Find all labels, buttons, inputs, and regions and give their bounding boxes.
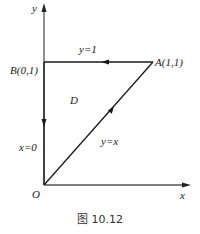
x-axis-label: x [180, 190, 185, 201]
y-axis-arrow-icon [42, 3, 47, 12]
curve-label-x-equals-0: x=0 [19, 142, 37, 153]
arrow-down-icon [42, 119, 47, 127]
region-label-d: D [70, 95, 78, 106]
x-axis-arrow-icon [182, 183, 191, 188]
coordinate-diagram [0, 0, 200, 234]
arrow-left-icon [101, 60, 109, 65]
segment-y-equals-x [44, 62, 153, 185]
figure-caption: 图 10.12 [0, 210, 200, 226]
y-axis-label: y [32, 3, 37, 14]
curve-label-y-equals-1: y=1 [79, 44, 97, 55]
point-label-a: A(1,1) [155, 57, 183, 68]
point-label-b: B(0,1) [10, 65, 38, 76]
curve-label-y-equals-x: y=x [101, 136, 118, 147]
origin-label: O [32, 189, 40, 200]
